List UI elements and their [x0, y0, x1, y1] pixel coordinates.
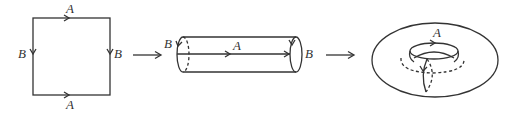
torus-meridian-front: [423, 59, 427, 92]
square-bottom-label: A: [65, 97, 74, 112]
square-outline: [33, 18, 110, 95]
cylinder-right-end: [290, 37, 302, 72]
transition-arrow-2-icon: [326, 52, 354, 59]
cylinder-middle-label: A: [232, 38, 241, 53]
torus-hole-left-side: [410, 51, 415, 62]
torus-meridian-back: [426, 59, 432, 92]
square-top-label: A: [65, 1, 74, 16]
cylinder-right-label: B: [305, 46, 313, 61]
cylinder-left-label: B: [164, 36, 172, 51]
cylinder-panel: B A B: [164, 36, 313, 72]
square-panel: A A B B: [18, 1, 122, 112]
torus-hole-right-side: [454, 51, 459, 62]
square-left-label: B: [18, 46, 26, 61]
transition-arrow-1-icon: [133, 52, 161, 59]
square-right-label: B: [114, 46, 122, 61]
torus-top-label: A: [432, 25, 441, 40]
torus-construction-diagram: A A B B B A B: [0, 0, 522, 113]
torus-panel: A: [372, 23, 498, 97]
